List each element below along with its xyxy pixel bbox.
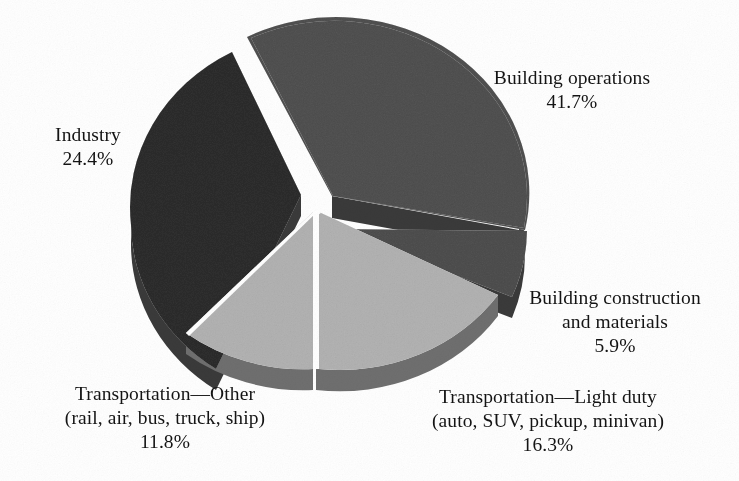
- label-building-construction-value: 5.9%: [496, 334, 734, 358]
- label-transportation-light-duty-value: 16.3%: [398, 433, 698, 457]
- label-industry: Industry 24.4%: [8, 123, 168, 171]
- label-transportation-light-duty: Transportation—Light duty (auto, SUV, pi…: [398, 385, 698, 456]
- label-building-operations-name: Building operations: [452, 66, 692, 90]
- pie-chart-figure: Building operations 41.7% Building const…: [0, 0, 739, 481]
- label-transportation-other-name: Transportation—Other: [16, 382, 314, 406]
- label-industry-value: 24.4%: [8, 147, 168, 171]
- label-building-operations-value: 41.7%: [452, 90, 692, 114]
- label-transportation-other-value: 11.8%: [16, 430, 314, 454]
- label-building-construction: Building construction and materials 5.9%: [496, 286, 734, 357]
- label-transportation-light-duty-detail: (auto, SUV, pickup, minivan): [398, 409, 698, 433]
- label-transportation-other-detail: (rail, air, bus, truck, ship): [16, 406, 314, 430]
- label-building-operations: Building operations 41.7%: [452, 66, 692, 114]
- label-building-construction-name-1: Building construction: [496, 286, 734, 310]
- pie-center-notch: [308, 196, 326, 214]
- label-industry-name: Industry: [8, 123, 168, 147]
- slice-divider-right: [316, 212, 319, 369]
- label-building-construction-name-2: and materials: [496, 310, 734, 334]
- label-transportation-light-duty-name: Transportation—Light duty: [398, 385, 698, 409]
- label-transportation-other: Transportation—Other (rail, air, bus, tr…: [16, 382, 314, 453]
- slice-divider-center: [313, 206, 316, 369]
